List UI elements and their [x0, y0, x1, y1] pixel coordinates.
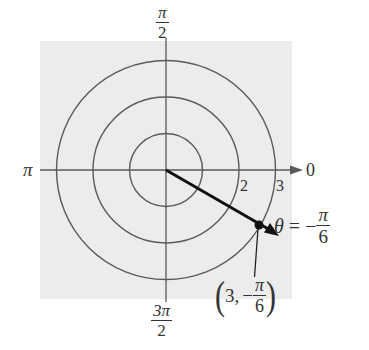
angle-label: θ = − π 6	[274, 205, 330, 246]
point-angle-numerator: π	[253, 276, 266, 296]
point-minus-sign: −	[242, 286, 253, 305]
radial-tick-3: 3	[276, 178, 284, 194]
point-radius: 3,	[225, 286, 239, 305]
label-pi-over-2: π 2	[156, 4, 169, 41]
label-pi: π	[23, 160, 33, 179]
open-paren: (	[215, 276, 225, 315]
angle-denominator: 6	[318, 226, 328, 246]
point-marker	[255, 221, 264, 230]
radial-tick-2: 2	[240, 178, 248, 194]
label-bottom-denominator: 2	[157, 321, 166, 339]
label-top-denominator: 2	[158, 23, 167, 41]
label-zero: 0	[306, 161, 315, 179]
point-coordinate-label: ( 3, − π 6 )	[215, 276, 276, 315]
theta-symbol: θ	[274, 216, 284, 236]
label-bottom-numerator: 3π	[151, 302, 172, 321]
angle-numerator: π	[316, 205, 330, 226]
polar-diagram: π 2 3π 2 π 0 2 3 θ = − π 6 ( 3, − π 6 )	[0, 0, 369, 350]
angle-equals-sign: = −	[284, 216, 317, 236]
point-angle-denominator: 6	[255, 296, 264, 315]
close-paren: )	[266, 276, 276, 315]
label-top-numerator: π	[156, 4, 169, 23]
label-3pi-over-2: 3π 2	[151, 302, 172, 339]
polar-axis-arrow-icon	[290, 166, 303, 175]
